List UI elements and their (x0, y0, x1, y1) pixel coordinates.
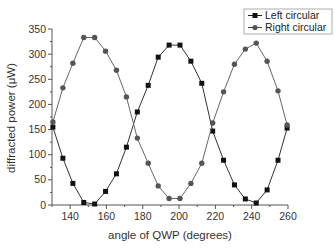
line-chart: 050100150200250300350 140160180200220240… (0, 0, 334, 251)
x-axis-title: angle of QWP (degrees) (108, 229, 232, 241)
circle-marker-icon (166, 196, 171, 201)
circle-marker-icon (60, 85, 65, 90)
circle-marker-icon (50, 119, 55, 124)
y-tick-label: 250 (28, 73, 46, 85)
square-marker-icon (276, 158, 281, 163)
circle-marker-icon (199, 161, 204, 166)
circle-marker-icon (124, 94, 129, 99)
y-tick-label: 200 (28, 98, 46, 110)
circle-marker-icon (135, 135, 140, 140)
circle-marker-icon (252, 25, 257, 30)
square-marker-icon (156, 55, 161, 60)
circle-marker-icon (146, 161, 151, 166)
x-tick-label: 180 (134, 210, 152, 222)
y-tick-label: 0 (40, 199, 46, 211)
y-tick-label: 350 (28, 23, 46, 35)
square-marker-icon (81, 200, 86, 205)
square-marker-icon (177, 43, 182, 48)
square-marker-icon (221, 158, 226, 163)
square-marker-icon (103, 189, 108, 194)
plot-series (50, 35, 290, 207)
x-tick-label: 240 (243, 210, 261, 222)
circle-marker-icon (254, 40, 259, 45)
x-axis: 140160180200220240260 (52, 205, 297, 222)
circle-marker-icon (188, 181, 193, 186)
square-marker-icon (146, 83, 151, 88)
y-tick-label: 300 (28, 48, 46, 60)
square-marker-icon (232, 182, 237, 187)
circle-marker-icon (264, 58, 269, 63)
square-marker-icon (188, 59, 193, 64)
y-tick-label: 50 (34, 173, 46, 185)
square-marker-icon (92, 201, 97, 206)
square-marker-icon (135, 109, 140, 114)
square-marker-icon (50, 125, 55, 130)
square-marker-icon (167, 43, 172, 48)
legend-label: Left circular (265, 9, 320, 21)
circle-marker-icon (284, 122, 289, 127)
square-marker-icon (70, 181, 75, 186)
series-right-circular (50, 35, 290, 201)
x-tick-label: 200 (170, 210, 188, 222)
circle-marker-icon (210, 120, 215, 125)
x-tick-label: 220 (207, 210, 225, 222)
x-tick-label: 260 (279, 210, 297, 222)
legend: Left circular Right circular (244, 9, 332, 34)
square-marker-icon (124, 145, 129, 150)
circle-marker-icon (103, 48, 108, 53)
square-marker-icon (199, 81, 204, 86)
y-axis-title: diffracted power (μW) (5, 63, 17, 173)
circle-marker-icon (275, 88, 280, 93)
circle-marker-icon (177, 196, 182, 201)
square-marker-icon (243, 196, 248, 201)
series-left-circular (50, 43, 289, 207)
circle-marker-icon (70, 60, 75, 65)
circle-marker-icon (232, 61, 237, 66)
y-tick-label: 100 (28, 148, 46, 160)
y-axis: 050100150200250300350 (28, 23, 52, 211)
circle-marker-icon (221, 89, 226, 94)
square-marker-icon (60, 156, 65, 161)
square-marker-icon (114, 171, 119, 176)
square-marker-icon (254, 200, 259, 205)
square-marker-icon (253, 13, 258, 18)
square-marker-icon (265, 187, 270, 192)
legend-label: Right circular (265, 21, 327, 33)
circle-marker-icon (92, 35, 97, 40)
circle-marker-icon (156, 183, 161, 188)
x-tick-label: 140 (61, 210, 79, 222)
circle-marker-icon (243, 46, 248, 51)
circle-marker-icon (81, 35, 86, 40)
circle-marker-icon (114, 68, 119, 73)
x-tick-label: 160 (98, 210, 116, 222)
y-tick-label: 150 (28, 123, 46, 135)
